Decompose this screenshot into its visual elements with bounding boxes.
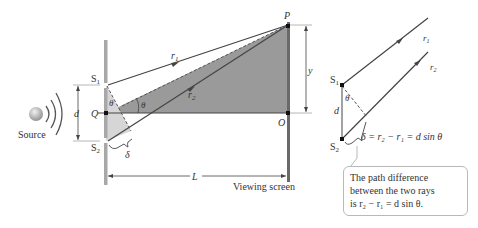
inset-arrow-r1-icon xyxy=(396,38,403,44)
label-L: L xyxy=(191,171,198,182)
callout-line-3: is r₂ − r₁ = d sin θ. xyxy=(350,197,461,210)
label-r1: r1 xyxy=(171,50,178,63)
inset-label-r2: r2 xyxy=(430,62,437,73)
wavefront-icon xyxy=(46,93,62,135)
y-arrow-top-icon xyxy=(304,26,308,31)
label-y: y xyxy=(307,65,313,76)
slit-barrier xyxy=(104,40,108,83)
label-d: d xyxy=(74,108,80,119)
inset-label-d: d xyxy=(334,105,340,116)
label-p: P xyxy=(283,10,290,21)
label-viewing-screen: Viewing screen xyxy=(233,181,295,192)
label-theta-axis: θ xyxy=(141,100,146,110)
label-delta: δ xyxy=(125,149,130,160)
inset-label-theta: θ xyxy=(345,93,350,103)
slit-barrier-bottom xyxy=(104,143,108,185)
L-arrow-right-icon xyxy=(281,174,286,178)
L-arrow-left-icon xyxy=(108,174,113,178)
inset-point-s2 xyxy=(340,137,344,141)
label-source: Source xyxy=(18,129,46,140)
point-q xyxy=(104,111,108,115)
point-o xyxy=(286,111,290,115)
inset-point-s1 xyxy=(340,83,344,87)
y-arrow-bottom-icon xyxy=(304,107,308,112)
d-arrow-top-icon xyxy=(76,86,80,91)
inset-label-r1: r1 xyxy=(423,33,430,44)
shaded-triangle-large xyxy=(106,25,288,113)
inset-ray-r2 xyxy=(342,52,428,139)
viewing-screen xyxy=(287,22,290,182)
label-o: O xyxy=(278,117,285,128)
inset-label-s2: S2 xyxy=(330,141,340,154)
callout-line-2: between the two rays xyxy=(350,184,461,197)
d-arrow-bottom-icon xyxy=(76,135,80,140)
label-theta-slit: θ xyxy=(109,98,114,108)
callout-pointer xyxy=(351,146,357,166)
point-p xyxy=(286,24,290,28)
label-s1: S1 xyxy=(91,73,101,86)
callout-line-1: The path difference xyxy=(350,171,461,184)
inset-equation: δ = r₂ − r₁ = d sin θ xyxy=(361,131,442,142)
label-q: Q xyxy=(91,108,99,119)
source-icon xyxy=(29,107,43,121)
label-s2: S2 xyxy=(91,142,101,155)
path-difference-callout: The path difference between the two rays… xyxy=(343,166,468,216)
delta-brace xyxy=(109,139,132,149)
inset-ray-r1 xyxy=(342,18,428,85)
inset-label-s1: S1 xyxy=(330,74,340,87)
